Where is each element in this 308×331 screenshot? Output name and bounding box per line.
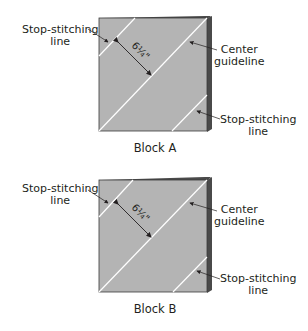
label-stop-stitching-bottom: Stop-stitching line [220,114,296,138]
label-stop-stitching-top: Stop-stitching line [22,24,98,48]
block-b-panel: 6¼" Stop-stitching line Center guideline… [0,162,308,327]
block-a-panel: 6¼" Stop-stitching line Center guideline… [0,0,308,165]
label-stop-stitching-bottom: Stop-stitching line [220,273,296,297]
block-b-caption: Block B [105,302,205,316]
block-a-caption: Block A [105,141,205,155]
label-center-guideline: Center guideline [214,204,265,228]
label-stop-stitching-top: Stop-stitching line [22,183,98,207]
label-center-guideline: Center guideline [214,44,265,68]
